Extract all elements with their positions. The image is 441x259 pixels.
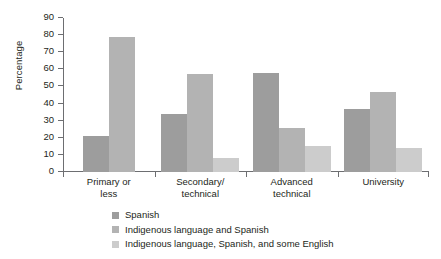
y-axis-tick-label: 60: [43, 61, 54, 74]
legend-swatch-icon: [112, 212, 119, 219]
x-axis-category-labels: Primary orlessSecondary/technicalAdvance…: [63, 176, 429, 202]
legend-label: Indigenous language, Spanish, and some E…: [125, 238, 334, 250]
y-axis-tick-label: 50: [43, 78, 54, 91]
label-line: Primary or: [63, 176, 155, 188]
legend-swatch-icon: [112, 241, 119, 248]
label-line: less: [63, 188, 155, 200]
legend-item[interactable]: Spanish: [112, 208, 412, 223]
bar: [344, 109, 370, 172]
label-line: technical: [155, 188, 247, 200]
y-axis-tick-label: 90: [43, 10, 54, 23]
y-axis-tick-label: 80: [43, 27, 54, 40]
legend-swatch-icon: [112, 226, 119, 233]
y-axis-tick-label: 40: [43, 96, 54, 109]
y-axis-tick-label: 30: [43, 113, 54, 126]
label-line: technical: [246, 188, 338, 200]
bar-chart: Percentage 0102030405060708090 Primary o…: [0, 0, 441, 259]
bar-group: [63, 18, 429, 172]
bar: [396, 148, 422, 172]
legend-item[interactable]: Indigenous language, Spanish, and some E…: [112, 237, 412, 252]
x-axis-category-label: Secondary/technical: [155, 176, 247, 200]
legend-item[interactable]: Indigenous language and Spanish: [112, 223, 412, 238]
y-axis-tick-label: 0: [49, 164, 54, 177]
bar: [370, 92, 396, 172]
plot-area: 0102030405060708090: [63, 18, 429, 172]
legend-label: Spanish: [125, 209, 159, 221]
y-axis-tick-label: 20: [43, 130, 54, 143]
y-axis-title: Percentage: [13, 26, 24, 106]
legend-label: Indigenous language and Spanish: [125, 224, 269, 236]
x-axis-category-label: Advancedtechnical: [246, 176, 338, 200]
y-axis-tick-label: 10: [43, 147, 54, 160]
legend: SpanishIndigenous language and SpanishIn…: [112, 208, 412, 252]
y-axis-tick-label: 70: [43, 44, 54, 57]
label-line: Advanced: [246, 176, 338, 188]
x-axis-category-label: Primary orless: [63, 176, 155, 200]
label-line: University: [338, 176, 430, 188]
label-line: Secondary/: [155, 176, 247, 188]
x-axis-category-label: University: [338, 176, 430, 188]
